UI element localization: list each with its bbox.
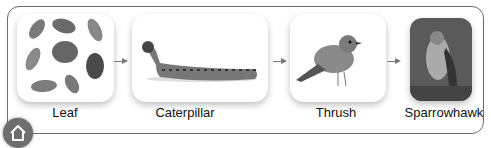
caterpillar-card <box>132 14 268 102</box>
thrush-label: Thrush <box>306 105 366 120</box>
leaf-label: Leaf <box>40 105 90 120</box>
home-button[interactable] <box>3 118 33 148</box>
sparrowhawk-image <box>410 18 472 101</box>
home-icon <box>8 123 28 143</box>
arrow-leaf-to-caterpillar <box>114 61 126 62</box>
caterpillar-image <box>132 14 268 102</box>
sparrowhawk-card <box>410 18 472 101</box>
sparrowhawk-label: Sparrowhawk <box>402 105 486 120</box>
leaves-image <box>17 14 114 102</box>
caterpillar-label: Caterpillar <box>145 105 225 120</box>
leaf-card <box>17 14 114 102</box>
arrow-thrush-to-sparrowhawk <box>387 61 399 62</box>
thrush-image <box>290 14 386 102</box>
arrow-caterpillar-to-thrush <box>273 61 285 62</box>
thrush-card <box>290 14 386 102</box>
